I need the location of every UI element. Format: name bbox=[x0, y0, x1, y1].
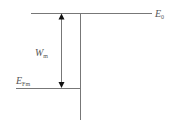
label-sub: m bbox=[43, 53, 48, 59]
vacuum-level-label: E0 bbox=[155, 9, 164, 22]
fermi-level-label: EFm bbox=[16, 76, 30, 89]
label-sub: Fm bbox=[22, 81, 30, 87]
work-function-arrow bbox=[59, 14, 65, 89]
label-sub: 0 bbox=[161, 14, 164, 20]
arrow-up-icon bbox=[59, 14, 65, 20]
arrow-down-icon bbox=[59, 82, 65, 88]
work-function-label: Wm bbox=[35, 48, 48, 61]
energy-diagram bbox=[0, 0, 180, 131]
